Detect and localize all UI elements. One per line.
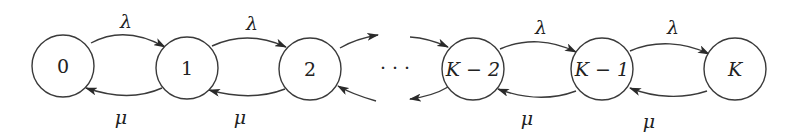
edge-K1-to-K2 [498, 89, 576, 97]
edge-dots-to-2 [338, 86, 376, 101]
edge-1-to-2 [212, 38, 286, 47]
state-node-0: 0 [32, 35, 94, 97]
markov-chain-diagram: 0 1 2 K − 2 K − 1 K · · · λ λ λ λ μ μ μ … [0, 0, 794, 138]
mu-label-2-1: μ [234, 106, 246, 128]
state-node-2: 2 [279, 38, 341, 100]
state-label: K [727, 58, 744, 80]
lambda-label-1-2: λ [245, 12, 258, 34]
edge-K2-to-K1 [500, 42, 576, 52]
edge-dots-to-K2 [410, 37, 448, 47]
edge-0-to-1 [91, 35, 165, 47]
state-label: 1 [181, 57, 193, 79]
edge-2-to-dots [340, 35, 378, 48]
edge-K-to-K1 [630, 88, 707, 96]
lambda-label-0-1: λ [119, 10, 132, 32]
state-label: K − 2 [445, 58, 500, 80]
state-label: 0 [57, 55, 69, 77]
lambda-label-K1-K: λ [666, 16, 679, 38]
state-node-K: K [704, 38, 766, 100]
state-node-K-1: K − 1 [571, 38, 633, 100]
edge-K1-to-K [630, 44, 709, 54]
mu-label-K-K1: μ [643, 110, 655, 132]
ellipsis: · · · [380, 56, 410, 78]
mu-label-1-0: μ [115, 106, 127, 128]
mu-label-K1-K2: μ [521, 107, 533, 129]
lambda-label-K2-K1: λ [534, 16, 547, 38]
edge-K2-to-dots [410, 87, 448, 99]
state-label: 2 [304, 58, 316, 80]
state-label: K − 1 [574, 58, 629, 80]
edge-2-to-1 [209, 89, 285, 96]
state-node-1: 1 [156, 37, 218, 99]
state-node-K-2: K − 2 [442, 38, 504, 100]
edge-1-to-0 [86, 88, 162, 96]
